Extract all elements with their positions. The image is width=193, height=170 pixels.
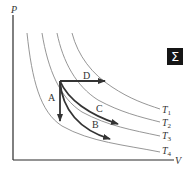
process-d-label: D [83, 70, 90, 81]
isotherm-label-t1: T1 [162, 104, 172, 117]
v-axis-label: V [175, 155, 183, 166]
isotherm-label-t2: T2 [162, 117, 172, 130]
p-axis-label: P [10, 4, 17, 15]
svg-text:T3: T3 [162, 130, 172, 143]
process-c-arrow [60, 81, 118, 124]
svg-text:T4: T4 [162, 145, 172, 158]
sigma-badge: Σ [167, 48, 183, 65]
isotherm-label-t4: T4 [162, 145, 172, 158]
isotherm-t2 [57, 33, 160, 122]
process-c-label: C [96, 103, 103, 114]
isotherm-t4 [27, 33, 160, 152]
svg-text:T2: T2 [162, 117, 172, 130]
svg-text:T1: T1 [162, 104, 172, 117]
process-b-label: B [92, 119, 99, 130]
pv-diagram: P V D A C B T1 T2 T3 T4 [0, 0, 193, 170]
isotherm-label-t3: T3 [162, 130, 172, 143]
process-a-label: A [48, 92, 56, 103]
